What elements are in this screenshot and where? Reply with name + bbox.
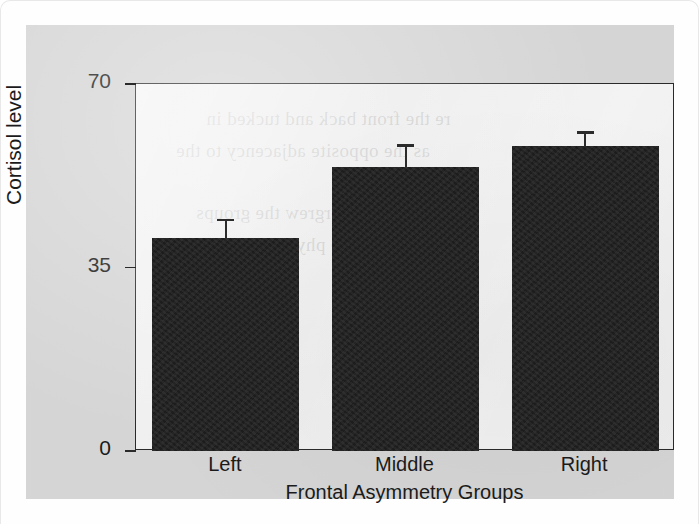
y-tick-mark-0 [125,450,136,452]
page-bleed-text-line-2: as the opposite adjacency to the [176,140,430,162]
x-tick-label-left: Left [135,453,315,476]
x-tick-label-middle: Middle [315,453,495,476]
error-bar-left [216,219,236,238]
error-bar-stem [225,219,227,238]
figure-panel: re the front back and tucked in as the o… [26,25,674,499]
error-bar-middle [396,144,416,167]
figure-card: re the front back and tucked in as the o… [0,0,699,524]
error-bar-right [575,131,595,146]
y-tick-label-70: 70 [45,69,111,93]
y-axis-title: Cortisol level [2,5,26,205]
y-tick-label-0: 0 [45,436,111,460]
bar-left[interactable] [152,238,299,451]
y-tick-label-35: 35 [45,253,111,277]
bar-right[interactable] [512,146,659,451]
error-bar-cap [397,144,414,146]
bar-middle[interactable] [332,167,479,451]
x-axis-title: Frontal Asymmetry Groups [135,481,674,504]
plot-area: re the front back and tucked in as the o… [135,83,674,450]
x-tick-label-right: Right [494,453,674,476]
y-tick-mark-70 [125,83,136,85]
error-bar-stem [405,144,407,167]
error-bar-cap [217,219,234,221]
y-tick-mark-35 [125,267,136,269]
page-bleed-text-line-1: re the front back and tucked in [206,108,451,130]
error-bar-cap [577,131,594,133]
